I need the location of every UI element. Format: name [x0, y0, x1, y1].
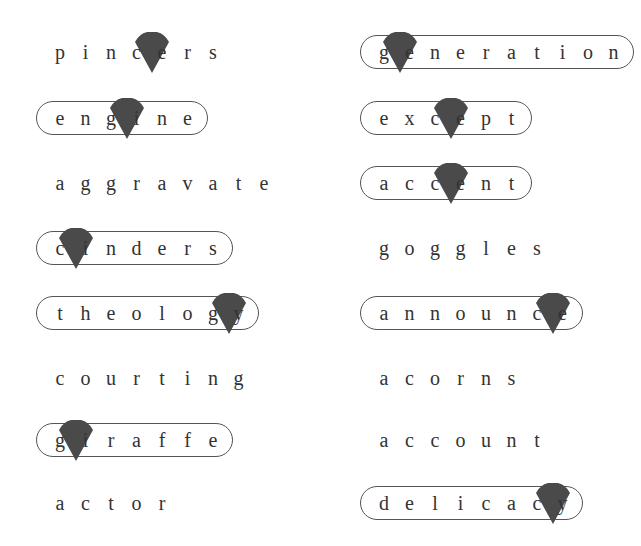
letter: n: [152, 100, 172, 136]
letter: r: [178, 34, 198, 70]
letter: n: [476, 360, 496, 396]
letter: c: [476, 485, 496, 521]
letter: d: [374, 485, 394, 521]
word-except[interactable]: except: [362, 100, 534, 136]
letter: y: [553, 485, 573, 521]
letter: o: [127, 295, 147, 331]
letter: a: [502, 34, 522, 70]
letter: a: [374, 165, 394, 201]
letter: s: [502, 360, 522, 396]
word-theology[interactable]: theology: [38, 295, 261, 331]
word-announce[interactable]: announce: [362, 295, 585, 331]
word-courting[interactable]: courting: [38, 360, 261, 396]
letter: t: [527, 34, 547, 70]
letter: h: [76, 295, 96, 331]
letter: t: [50, 295, 70, 331]
letter: d: [127, 230, 147, 266]
letter: a: [203, 165, 223, 201]
letter: i: [76, 230, 96, 266]
letter: r: [451, 360, 471, 396]
letter: g: [425, 230, 445, 266]
letter: i: [178, 360, 198, 396]
letter: n: [101, 230, 121, 266]
letter: e: [152, 230, 172, 266]
word-actor[interactable]: actor: [38, 485, 184, 521]
letter: n: [476, 165, 496, 201]
letter: a: [50, 165, 70, 201]
letter: u: [476, 422, 496, 458]
letter: c: [425, 100, 445, 136]
letter: o: [178, 295, 198, 331]
letter: n: [203, 360, 223, 396]
word-account[interactable]: account: [362, 422, 559, 458]
letter: u: [101, 360, 121, 396]
letter: e: [178, 100, 198, 136]
letter: c: [400, 165, 420, 201]
letter: c: [527, 295, 547, 331]
letter: i: [76, 34, 96, 70]
letter: c: [527, 485, 547, 521]
letter: s: [203, 230, 223, 266]
letter: n: [502, 422, 522, 458]
letter: g: [374, 34, 394, 70]
letter: f: [152, 422, 172, 458]
letter: r: [476, 34, 496, 70]
letter: e: [254, 165, 274, 201]
letter: a: [374, 360, 394, 396]
letter: e: [101, 295, 121, 331]
letter: f: [178, 422, 198, 458]
letter: e: [152, 34, 172, 70]
letter: e: [374, 100, 394, 136]
letter: g: [101, 165, 121, 201]
letter: u: [476, 295, 496, 331]
letter: r: [127, 360, 147, 396]
letter: t: [502, 100, 522, 136]
letter: a: [127, 422, 147, 458]
letter: t: [152, 360, 172, 396]
letter: c: [400, 360, 420, 396]
letter: n: [400, 295, 420, 331]
word-engine[interactable]: engine: [38, 100, 210, 136]
letter: e: [451, 165, 471, 201]
letter: s: [203, 34, 223, 70]
letter: e: [451, 100, 471, 136]
letter: i: [553, 34, 573, 70]
letter: c: [425, 422, 445, 458]
letter: e: [400, 485, 420, 521]
letter: a: [374, 422, 394, 458]
letter: a: [374, 295, 394, 331]
letter: c: [425, 165, 445, 201]
letter: o: [400, 230, 420, 266]
letter: o: [451, 422, 471, 458]
letter: t: [101, 485, 121, 521]
word-generation[interactable]: generation: [362, 34, 636, 70]
letter: r: [127, 165, 147, 201]
word-goggles[interactable]: goggles: [362, 230, 559, 266]
word-accent[interactable]: accent: [362, 165, 534, 201]
letter: i: [127, 100, 147, 136]
word-delicacy[interactable]: delicacy: [362, 485, 585, 521]
letter: c: [400, 422, 420, 458]
letter: l: [152, 295, 172, 331]
letter: n: [425, 295, 445, 331]
letter: c: [127, 34, 147, 70]
word-acorns[interactable]: acorns: [362, 360, 534, 396]
letter: r: [101, 422, 121, 458]
letter: c: [50, 230, 70, 266]
letter: o: [425, 360, 445, 396]
word-pincers[interactable]: pincers: [38, 34, 235, 70]
letter: r: [152, 485, 172, 521]
letter: e: [50, 100, 70, 136]
letter: l: [425, 485, 445, 521]
letter: e: [203, 422, 223, 458]
word-aggravate[interactable]: aggravate: [38, 165, 286, 201]
letter: g: [229, 360, 249, 396]
letter: y: [229, 295, 249, 331]
word-cinders[interactable]: cinders: [38, 230, 235, 266]
letter: g: [203, 295, 223, 331]
word-giraffe[interactable]: giraffe: [38, 422, 235, 458]
letter: e: [553, 295, 573, 331]
letter: p: [50, 34, 70, 70]
letter: n: [425, 34, 445, 70]
letter: o: [76, 360, 96, 396]
